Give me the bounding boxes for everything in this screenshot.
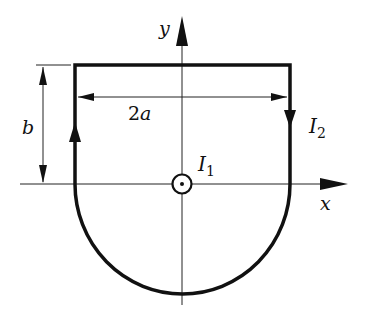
height-bottom-arrowhead-icon [39, 165, 47, 183]
height-top-arrowhead-icon [39, 67, 47, 85]
current-i1-label: I1 [197, 152, 215, 179]
height-label: b [22, 116, 34, 138]
diagram-canvas: y x b 2a I2 I1 [0, 0, 365, 313]
width-label-coefficient: 2 [128, 102, 140, 124]
y-axis-arrowhead-icon [176, 16, 188, 46]
current-i1-subscript: 1 [206, 163, 215, 179]
wire-out-of-page-icon [173, 175, 192, 194]
width-left-arrowhead-icon [78, 93, 94, 101]
loop-up-arrow-icon [69, 122, 81, 142]
current-i2-label: I2 [308, 114, 326, 141]
width-label: 2a [128, 102, 151, 124]
loop-down-arrow-icon [284, 110, 296, 128]
current-i2-subscript: 2 [317, 125, 326, 141]
x-axis-label: x [320, 192, 331, 214]
y-axis-label: y [158, 17, 170, 39]
width-right-arrowhead-icon [271, 93, 287, 101]
x-axis-arrowhead-icon [320, 178, 348, 190]
width-label-variable: a [140, 102, 151, 124]
y-axis [176, 16, 188, 305]
height-dimension [36, 65, 71, 183]
